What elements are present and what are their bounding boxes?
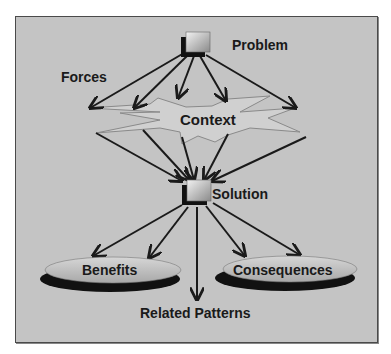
label-benefits: Benefits bbox=[82, 262, 137, 278]
arrow-solution-benefits-2 bbox=[149, 207, 188, 258]
label-consequences: Consequences bbox=[233, 262, 333, 278]
arrow-solution-benefits-1 bbox=[93, 205, 182, 256]
label-solution: Solution bbox=[212, 186, 268, 202]
arrow-problem-forces-4 bbox=[200, 56, 226, 101]
problem-box-icon bbox=[181, 32, 210, 57]
label-problem: Problem bbox=[232, 37, 288, 53]
label-forces: Forces bbox=[61, 69, 107, 85]
arrow-context-solution-5 bbox=[212, 137, 306, 181]
arrow-solution-consequences-1 bbox=[206, 206, 245, 256]
label-related-patterns: Related Patterns bbox=[140, 305, 251, 321]
label-context: Context bbox=[180, 111, 236, 128]
solution-box-icon bbox=[182, 180, 211, 205]
pattern-diagram: Problem Forces Context Solution Benefits… bbox=[0, 0, 391, 354]
arrow-solution-consequences-2 bbox=[213, 203, 300, 255]
